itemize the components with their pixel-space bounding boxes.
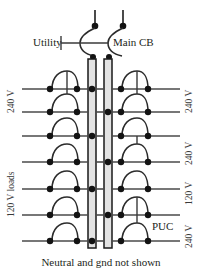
row-3-node-c (118, 133, 124, 139)
row-5-node-a (47, 186, 53, 192)
row-5-node-c (118, 186, 124, 192)
row-4-node-a (47, 159, 53, 165)
right-label-240v-row67: 240 V (184, 225, 194, 248)
row-6-breaker-right (122, 197, 148, 215)
row-5-breaker-left (52, 171, 78, 189)
diagram-caption: Neutral and gnd not shown (41, 256, 161, 268)
one-line-schematic: Utility Main CB (0, 0, 202, 276)
row-4-node-c (118, 159, 124, 165)
row-1-node-bus-a (89, 86, 95, 92)
right-label-240v-row34: 240 V (184, 142, 194, 165)
puc-label: PUC (152, 220, 173, 232)
row-3-breaker-right (122, 118, 148, 136)
row-2-breaker-right (122, 94, 148, 112)
row-7-node-c (118, 238, 124, 244)
row-6-node-c (118, 212, 124, 218)
main-cb-label: Main CB (113, 36, 154, 48)
circuit-row-6 (22, 197, 180, 218)
circuit-row-3 (22, 118, 180, 139)
row-4-breaker-right (122, 144, 148, 162)
row-1-node-b (74, 86, 80, 92)
row-3-node-d (145, 133, 151, 139)
row-4-node-b (74, 159, 80, 165)
left-label-120v-loads: 120 V loads (6, 171, 16, 217)
utility-label: Utility (33, 36, 62, 48)
circuit-row-1 (22, 71, 180, 92)
circuit-row-5 (22, 171, 180, 192)
row-2-breaker-left (52, 94, 78, 112)
row-5-node-d (145, 186, 151, 192)
electrical-panel-diagram: Utility Main CB (0, 0, 202, 276)
row-4-breaker-left (52, 144, 78, 162)
row-5-node-b (74, 186, 80, 192)
row-1-node-d (145, 86, 151, 92)
row-7-breaker-right-puc (122, 223, 148, 241)
row-3-node-b (74, 133, 80, 139)
row-7-breaker-left (52, 223, 78, 241)
row-5-breaker-right (122, 171, 148, 189)
row-1-node-c (118, 86, 124, 92)
row-4-node-d (145, 159, 151, 165)
right-label-120v-row5: 120 V (184, 182, 194, 205)
main-breaker-group (61, 10, 126, 60)
busbar-phase-b (104, 59, 112, 248)
row-1-breaker-left (52, 71, 78, 89)
row-6-node-b (74, 212, 80, 218)
main-cb-arc-left (80, 28, 95, 56)
row-3-node-a (47, 133, 53, 139)
row-7-node-b (74, 238, 80, 244)
row-7-node-bus-a (89, 238, 95, 244)
row-1-node-a (47, 86, 53, 92)
row-5-node-bus-a (89, 186, 95, 192)
row-1-breaker-right (122, 71, 148, 89)
left-label-240v: 240 V (6, 90, 16, 113)
row-6-node-bus-b (105, 212, 111, 218)
row-2-node-c (118, 109, 124, 115)
circuit-row-4 (22, 136, 180, 165)
right-label-240v-row12: 240 V (184, 90, 194, 113)
row-6-node-d (145, 212, 151, 218)
row-2-node-bus-b (105, 109, 111, 115)
row-2-node-b (74, 109, 80, 115)
row-2-node-a (47, 109, 53, 115)
row-7-node-a (47, 238, 53, 244)
row-3-breaker-left (52, 118, 78, 136)
row-6-node-a (47, 212, 53, 218)
row-4-node-bus-b (105, 159, 111, 165)
row-6-breaker-left (52, 197, 78, 215)
row-7-node-d (145, 238, 151, 244)
row-3-node-bus-a (89, 133, 95, 139)
circuit-row-2 (22, 71, 180, 115)
row-2-node-d (145, 109, 151, 115)
